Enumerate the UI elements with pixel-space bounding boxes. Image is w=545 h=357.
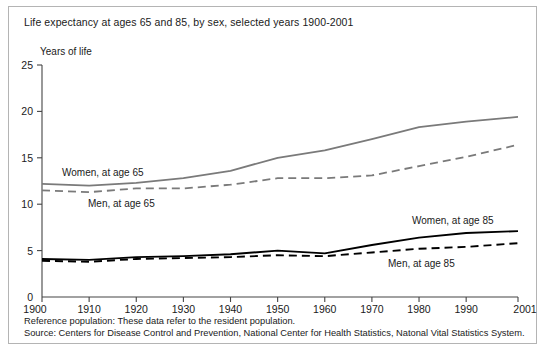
footnote-source: Source: Centers for Disease Control and … [24, 328, 525, 340]
line-chart-plot: 0510152025190019101920193019401950196019… [0, 0, 545, 357]
y-axis-tick-label: 10 [21, 198, 33, 210]
y-axis-tick-label: 25 [21, 59, 33, 71]
x-axis-tick-label: 1940 [219, 303, 243, 315]
x-axis-tick-label: 1910 [77, 303, 101, 315]
y-axis-tick-label: 15 [21, 152, 33, 164]
y-axis-tick-label: 20 [21, 105, 33, 117]
y-axis-tick-label: 5 [27, 245, 33, 257]
x-axis-tick-label: 2001 [513, 303, 537, 315]
x-axis-tick-label: 1900 [23, 303, 47, 315]
figure-container: Life expectancy at ages 65 and 85, by se… [0, 0, 545, 357]
annotation-men-at-age-85: Men, at age 85 [388, 258, 455, 269]
x-axis-tick-label: 1930 [172, 303, 196, 315]
x-axis-tick-label: 1950 [266, 303, 290, 315]
x-axis-tick-label: 1980 [407, 303, 431, 315]
annotation-women-at-age-65: Women, at age 65 [62, 167, 144, 178]
x-axis-tick-label: 1990 [454, 303, 478, 315]
annotation-women-at-age-85: Women, at age 85 [412, 215, 494, 226]
x-axis-tick-label: 1970 [360, 303, 384, 315]
y-axis-tick-label: 0 [27, 291, 33, 303]
x-axis-tick-label: 1920 [125, 303, 149, 315]
x-axis-tick-label: 1960 [313, 303, 337, 315]
annotation-men-at-age-65: Men, at age 65 [88, 198, 155, 209]
footnotes: Reference population: These data refer t… [24, 316, 525, 339]
footnote-reference-population: Reference population: These data refer t… [24, 316, 525, 328]
